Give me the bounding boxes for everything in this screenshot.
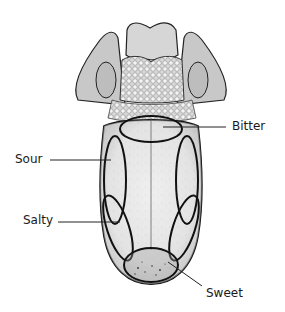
label-salty: Salty	[23, 214, 53, 226]
sweet-zone	[124, 248, 178, 282]
throat-structures	[76, 23, 226, 123]
label-sweet: Sweet	[206, 287, 243, 299]
label-sour: Sour	[15, 153, 43, 165]
label-bitter: Bitter	[232, 120, 265, 132]
